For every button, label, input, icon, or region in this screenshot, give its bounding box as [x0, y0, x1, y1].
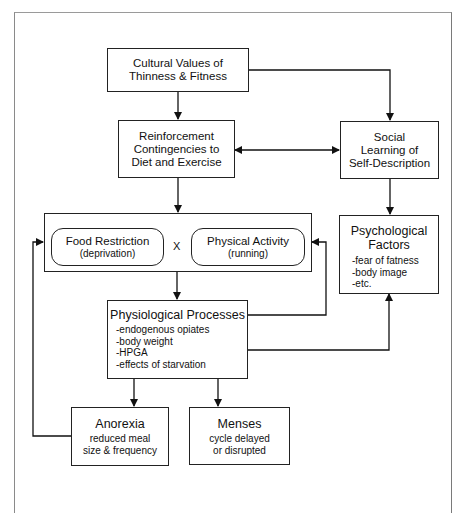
reinforcement-line3: Diet and Exercise — [131, 156, 221, 169]
anorexia-line1: reduced meal — [90, 433, 151, 445]
reinforcement-line2: Contingencies to — [134, 143, 220, 156]
reinforcement-box: Reinforcement Contingencies to Diet and … — [118, 120, 235, 178]
menses-line1: cycle delayed — [209, 433, 270, 445]
physical-activity-subtitle: (running) — [228, 248, 268, 260]
psych-line2: Factors — [368, 238, 410, 252]
menses-title: Menses — [218, 417, 262, 431]
anorexia-box: Anorexia reduced meal size & frequency — [71, 407, 169, 466]
psych-line1: Psychological — [351, 224, 427, 238]
social-line1: Social — [374, 131, 405, 144]
psych-item: -body image — [352, 267, 419, 279]
social-learning-box: Social Learning of Self-Description — [340, 121, 439, 179]
physio-item: -body weight — [116, 336, 209, 348]
social-line2: Learning of — [361, 144, 419, 157]
psych-list: -fear of fatness -body image -etc. — [352, 255, 419, 290]
physio-item: -endogenous opiates — [116, 324, 209, 336]
cultural-values-line2: Thinness & Fitness — [129, 70, 227, 83]
anorexia-line2: size & frequency — [83, 445, 157, 457]
cultural-values-line1: Cultural Values of — [133, 57, 223, 70]
physical-activity-pill: Physical Activity (running) — [191, 228, 305, 266]
physio-list: -endogenous opiates -body weight -HPGA -… — [116, 324, 209, 370]
physical-activity-title: Physical Activity — [207, 235, 289, 248]
physio-item: -HPGA — [116, 347, 209, 359]
food-restriction-pill: Food Restriction (deprivation) — [51, 228, 164, 266]
psych-item: -etc. — [352, 278, 419, 290]
food-restriction-subtitle: (deprivation) — [80, 248, 136, 260]
reinforcement-line1: Reinforcement — [139, 130, 214, 143]
physio-item: -effects of starvation — [116, 359, 209, 371]
social-line3: Self-Description — [349, 157, 430, 170]
food-restriction-title: Food Restriction — [66, 235, 150, 248]
cultural-values-box: Cultural Values of Thinness & Fitness — [107, 48, 249, 92]
menses-box: Menses cycle delayed or disrupted — [189, 407, 290, 465]
psychological-factors-box: Psychological Factors -fear of fatness -… — [339, 215, 439, 294]
physio-title: Physiological Processes — [110, 308, 245, 322]
interaction-symbol: X — [173, 240, 180, 252]
psych-item: -fear of fatness — [352, 255, 419, 267]
anorexia-title: Anorexia — [95, 417, 144, 431]
menses-line2: or disrupted — [213, 445, 266, 457]
physiological-processes-box: Physiological Processes -endogenous opia… — [107, 300, 248, 379]
